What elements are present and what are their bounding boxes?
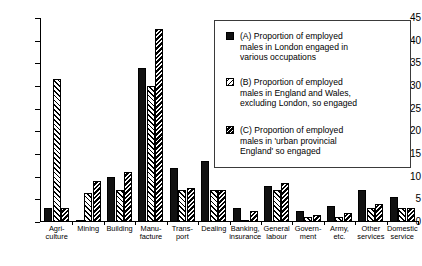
legend-label: (C) Proportion of employed males in 'urb… — [240, 125, 343, 157]
y-axis-tick — [35, 63, 40, 64]
bar-B-10 — [367, 208, 375, 222]
bar-group — [138, 18, 163, 222]
y-axis-tick — [35, 154, 40, 155]
bar-A-7 — [264, 186, 272, 222]
bar-C-5 — [218, 190, 226, 222]
legend-item-3: (C) Proportion of employed males in 'urb… — [226, 125, 343, 157]
bar-C-3 — [155, 29, 163, 222]
bar-B-6 — [241, 220, 249, 222]
bar-B-1 — [84, 193, 92, 222]
y-axis-tick — [35, 222, 40, 223]
bar-A-6 — [233, 208, 241, 222]
legend-item-2: (B) Proportion of employed males in Engl… — [226, 77, 357, 109]
bar-A-2 — [107, 177, 115, 222]
y-axis-tick — [35, 109, 40, 110]
bar-A-9 — [327, 206, 335, 222]
bar-B-9 — [335, 217, 343, 222]
bar-A-0 — [44, 208, 52, 222]
bar-group — [107, 18, 132, 222]
bar-C-7 — [281, 183, 289, 222]
bar-A-8 — [296, 211, 304, 222]
bar-group — [170, 18, 195, 222]
bar-A-3 — [138, 68, 146, 222]
legend-swatch-dense-diagonal-hatch — [226, 126, 234, 134]
bar-A-1 — [76, 220, 84, 222]
bar-C-10 — [375, 204, 383, 222]
bar-C-2 — [124, 172, 132, 222]
y-axis-tick — [35, 131, 40, 132]
chart-legend: (A) Proportion of employed males in Lond… — [214, 20, 411, 168]
bar-C-8 — [313, 215, 321, 222]
y-axis-tick — [35, 18, 40, 19]
legend-label: (B) Proportion of employed males in Engl… — [240, 77, 357, 109]
bar-B-5 — [210, 190, 218, 222]
bar-B-3 — [147, 86, 155, 222]
bar-C-0 — [61, 208, 69, 222]
bar-B-2 — [116, 190, 124, 222]
x-axis-label: Domestic service — [383, 225, 422, 242]
bar-A-4 — [170, 168, 178, 222]
bar-C-6 — [250, 211, 258, 222]
y-axis-tick — [35, 199, 40, 200]
bar-A-11 — [390, 197, 398, 222]
bar-B-7 — [273, 190, 281, 222]
bar-C-11 — [407, 208, 415, 222]
y-axis-tick — [35, 86, 40, 87]
bar-A-5 — [201, 161, 209, 222]
bar-C-4 — [187, 188, 195, 222]
bar-C-9 — [344, 213, 352, 222]
bar-A-10 — [358, 190, 366, 222]
bar-C-1 — [93, 181, 101, 222]
x-axis-tick — [418, 221, 419, 225]
bar-B-8 — [304, 217, 312, 222]
bar-B-0 — [53, 79, 61, 222]
bar-group — [76, 18, 101, 222]
bar-B-4 — [178, 190, 186, 222]
y-axis-tick — [35, 177, 40, 178]
bar-B-11 — [398, 208, 406, 222]
legend-swatch-light-diagonal-hatch — [226, 78, 234, 86]
legend-label: (A) Proportion of employed males in Lond… — [240, 31, 348, 63]
y-axis-tick — [35, 41, 40, 42]
legend-swatch-solid-black — [226, 32, 234, 40]
bar-group — [44, 18, 69, 222]
legend-item-1: (A) Proportion of employed males in Lond… — [226, 31, 348, 63]
